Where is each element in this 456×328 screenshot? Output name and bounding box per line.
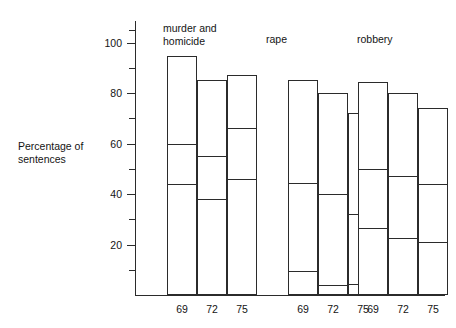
y-tick-label: 60 — [96, 138, 122, 150]
y-tick-label-wrap: 60 — [96, 144, 122, 145]
bar-segment-divider — [388, 238, 418, 239]
y-tick-minor — [129, 118, 135, 119]
bar-robbery-72 — [388, 93, 418, 295]
bar-segment-divider — [227, 179, 257, 180]
bar-segment-divider — [358, 169, 388, 170]
group-heading-3: robbery — [357, 33, 393, 46]
bar-segment-divider — [167, 144, 197, 145]
x-tick-label-72: 72 — [206, 303, 218, 315]
y-tick-major — [127, 144, 135, 145]
y-tick-label: 80 — [96, 87, 122, 99]
bar-segment-divider — [197, 156, 227, 157]
bar-murder-and-75 — [227, 75, 257, 295]
x-tick-label-69: 69 — [297, 303, 309, 315]
y-tick-major — [127, 194, 135, 195]
x-tick-label-75: 75 — [236, 303, 248, 315]
y-tick-major — [127, 93, 135, 94]
y-tick-major — [127, 43, 135, 44]
x-axis-line — [135, 295, 445, 296]
chart-canvas: Percentage of sentences 20406080100 murd… — [0, 0, 456, 328]
y-tick-label-wrap: 20 — [96, 245, 122, 246]
bar-segment-divider — [358, 228, 388, 229]
group-heading-1: murder and homicide — [163, 22, 217, 48]
y-tick-label: 20 — [96, 239, 122, 251]
bar-rape-69 — [288, 80, 318, 295]
x-tick-label-75: 75 — [427, 303, 439, 315]
x-tick-label-69: 69 — [176, 303, 188, 315]
bar-segment-divider — [418, 242, 448, 243]
bar-segment-divider — [288, 183, 318, 184]
y-tick-label-wrap: 80 — [96, 93, 122, 94]
bar-segment-divider — [288, 271, 318, 272]
y-tick-major — [127, 245, 135, 246]
y-tick-label: 100 — [96, 37, 122, 49]
group-heading-2: rape — [266, 33, 287, 46]
x-tick-label-72: 72 — [327, 303, 339, 315]
y-tick-minor — [129, 270, 135, 271]
x-tick-label-69: 69 — [367, 303, 379, 315]
y-axis-line — [135, 21, 136, 296]
bar-segment-divider — [318, 285, 348, 286]
y-tick-minor — [129, 30, 135, 31]
bar-segment-divider — [388, 176, 418, 177]
y-tick-minor — [129, 68, 135, 69]
bar-segment-divider — [197, 199, 227, 200]
bar-murder-and-69 — [167, 56, 197, 295]
bar-segment-divider — [227, 128, 257, 129]
bar-segment-divider — [167, 184, 197, 185]
bar-robbery-69 — [358, 82, 388, 295]
bar-segment-divider — [418, 184, 448, 185]
y-tick-label: 40 — [96, 188, 122, 200]
y-tick-label-wrap: 40 — [96, 194, 122, 195]
bar-murder-and-72 — [197, 80, 227, 295]
x-tick-label-72: 72 — [397, 303, 409, 315]
bar-segment-divider — [318, 194, 348, 195]
y-tick-label-wrap: 100 — [96, 43, 122, 44]
bar-robbery-75 — [418, 108, 448, 295]
y-tick-minor — [129, 169, 135, 170]
y-tick-minor — [129, 219, 135, 220]
